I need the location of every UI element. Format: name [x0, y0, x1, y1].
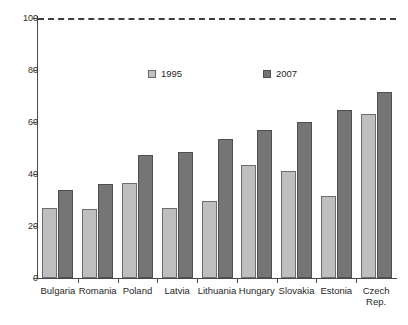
bar-group	[82, 18, 113, 278]
x-axis-label: Slovakia	[277, 285, 317, 296]
x-tick-mark	[197, 279, 198, 283]
x-axis-label: Hungary	[237, 285, 277, 296]
x-tick-mark	[78, 279, 79, 283]
x-axis-label: Estonia	[316, 285, 356, 296]
bar-group	[321, 18, 352, 278]
bar-group	[241, 18, 272, 278]
bar-group	[42, 18, 73, 278]
x-tick-mark	[237, 279, 238, 283]
bar	[321, 196, 336, 278]
x-axis-label: Czech Rep.	[356, 285, 396, 307]
x-axis-label: Poland	[118, 285, 158, 296]
bar	[377, 92, 392, 278]
x-axis-label: Latvia	[157, 285, 197, 296]
bar	[257, 130, 272, 278]
bar	[138, 155, 153, 279]
bar	[178, 152, 193, 278]
bar-chart: 020406080100 BulgariaRomaniaPolandLatvia…	[0, 0, 408, 325]
bar	[82, 209, 97, 278]
x-axis-labels: BulgariaRomaniaPolandLatviaLithuaniaHung…	[0, 285, 408, 325]
bar	[361, 114, 376, 278]
bar-group	[202, 18, 233, 278]
bar	[98, 184, 113, 278]
bar	[58, 190, 73, 278]
bar	[281, 171, 296, 278]
bar	[297, 122, 312, 278]
bar-group	[122, 18, 153, 278]
x-axis-label: Romania	[78, 285, 118, 296]
x-tick-mark	[118, 279, 119, 283]
x-tick-mark	[316, 279, 317, 283]
bar	[122, 183, 137, 278]
x-tick-mark	[157, 279, 158, 283]
bar-group	[361, 18, 392, 278]
bar	[241, 165, 256, 278]
bar	[42, 208, 57, 278]
bar	[162, 208, 177, 278]
x-axis-label: Lithuania	[197, 285, 237, 296]
x-axis-label: Bulgaria	[38, 285, 78, 296]
x-tick-mark	[277, 279, 278, 283]
bar	[202, 201, 217, 278]
bar	[337, 110, 352, 278]
bar-group	[281, 18, 312, 278]
plot-area	[38, 18, 396, 278]
bar	[218, 139, 233, 278]
x-tick-mark	[356, 279, 357, 283]
bar-group	[162, 18, 193, 278]
